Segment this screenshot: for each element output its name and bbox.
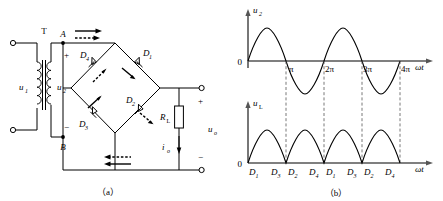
output-voltage-label: u o — [208, 124, 217, 136]
svg-text:u: u — [253, 98, 258, 108]
diode-d4-label: D 4 — [79, 50, 89, 62]
ul-tick-d2-b: D 2 — [363, 167, 374, 179]
secondary-minus-sign: − — [64, 122, 69, 132]
circuit-diagram-a: T u 1 u 2 + − A B — [10, 26, 217, 197]
phase-guide-lines — [286, 61, 400, 163]
figure-root: T u 1 u 2 + − A B — [0, 0, 443, 201]
ul-tick-d4-b: D 4 — [384, 167, 395, 179]
secondary-wire-bottom — [51, 105, 63, 137]
svg-text:4: 4 — [392, 173, 395, 179]
transformer-primary-coil — [37, 62, 41, 104]
u2-y-axis-label: u 2 — [253, 5, 262, 17]
top-current-arrows — [75, 29, 102, 41]
svg-text:u: u — [19, 82, 24, 92]
svg-text:2: 2 — [295, 173, 298, 179]
u2-y-axis-arrow — [245, 9, 250, 16]
diode-d2-label: D 2 — [125, 95, 135, 107]
svg-text:i: i — [162, 142, 165, 152]
svg-text:4: 4 — [86, 56, 89, 62]
svg-text:2: 2 — [371, 173, 374, 179]
caption-b: （b） — [325, 188, 348, 198]
svg-text:2: 2 — [132, 101, 135, 107]
svg-text:1: 1 — [333, 173, 336, 179]
load-resistor-body — [175, 106, 184, 128]
chart-ul: u L ωt 0 D 1 D 3 D 2 — [238, 98, 434, 179]
ul-y-axis-arrow — [245, 101, 250, 108]
secondary-wire-top — [51, 43, 63, 62]
bridge-rectifier: D 4 D 1 D 3 — [63, 43, 160, 133]
input-voltage-label: u 1 — [19, 82, 28, 94]
u2-zero-label: 0 — [238, 57, 243, 67]
u2-x-axis-arrow — [426, 58, 433, 63]
svg-text:1: 1 — [149, 54, 152, 60]
bridge-edge-bottom-right — [115, 88, 160, 133]
transformer-label: T — [41, 26, 47, 36]
caption-a: （a） — [97, 187, 119, 197]
ul-tick-d4-a: D 4 — [308, 167, 319, 179]
secondary-plus-sign: + — [64, 50, 69, 60]
load-resistor-label: R L — [159, 112, 171, 124]
svg-text:1: 1 — [256, 173, 259, 179]
output-minus-sign: − — [198, 152, 203, 162]
bridge-edge-top-right — [115, 43, 160, 88]
svg-text:L: L — [259, 104, 263, 110]
svg-text:u: u — [253, 5, 258, 15]
node-a-dot — [61, 41, 65, 45]
transformer-secondary-coil — [47, 62, 51, 104]
primary-wire-bottom — [16, 108, 37, 130]
svg-text:u: u — [208, 124, 213, 134]
input-terminal-top[interactable] — [10, 40, 15, 45]
u2-xtick-2pi: 2π — [325, 64, 335, 74]
svg-text:o: o — [214, 130, 217, 136]
waveform-diagram-b: u 2 ωt 0 π 2π 3π 4π u — [238, 5, 434, 198]
u2-x-axis-label: ωt — [415, 62, 424, 72]
svg-text:L: L — [167, 118, 171, 124]
u2-xtick-4pi: 4π — [401, 64, 411, 74]
diode-d1-label: D 1 — [142, 48, 152, 60]
ul-x-axis-label: ωt — [415, 164, 424, 174]
ul-tick-d3-a: D 3 — [270, 167, 281, 179]
ul-y-axis-label: u L — [253, 98, 263, 110]
svg-text:2: 2 — [259, 11, 262, 17]
u2-xtick-3pi: 3π — [363, 64, 373, 74]
diode-d1-symbol — [135, 57, 143, 67]
svg-text:R: R — [159, 112, 166, 122]
ul-tick-d2-a: D 2 — [287, 167, 298, 179]
output-terminal-top[interactable] — [199, 85, 204, 90]
ul-tick-d3-b: D 3 — [346, 167, 357, 179]
ul-diode-tick-labels: D 1 D 3 D 2 D 4 D 1 — [248, 167, 395, 179]
diode-d3-label: D 3 — [78, 119, 88, 131]
svg-text:o: o — [167, 148, 170, 154]
ul-tick-d1-a: D 1 — [248, 167, 259, 179]
input-terminal-bottom[interactable] — [10, 127, 15, 132]
ul-tick-d1-b: D 1 — [325, 167, 336, 179]
u2-xtick-pi: π — [289, 64, 294, 74]
node-a-label: A — [59, 29, 66, 39]
output-terminal-bottom[interactable] — [199, 167, 204, 172]
svg-text:3: 3 — [277, 173, 281, 179]
ul-x-axis-arrow — [426, 160, 433, 165]
output-current-indicator: i o — [162, 136, 181, 154]
primary-wire-top — [16, 43, 37, 62]
svg-text:3: 3 — [84, 125, 88, 131]
ul-zero-label: 0 — [238, 159, 243, 169]
svg-text:3: 3 — [353, 173, 357, 179]
svg-text:1: 1 — [25, 88, 28, 94]
svg-text:4: 4 — [316, 173, 319, 179]
svg-text:u: u — [57, 82, 62, 92]
output-plus-sign: + — [198, 96, 203, 106]
full-figure: T u 1 u 2 + − A B — [0, 0, 443, 201]
chart-u2: u 2 ωt 0 π 2π 3π 4π — [238, 5, 434, 94]
io-arrow-head — [177, 148, 182, 154]
bottom-current-arrows — [104, 155, 131, 167]
